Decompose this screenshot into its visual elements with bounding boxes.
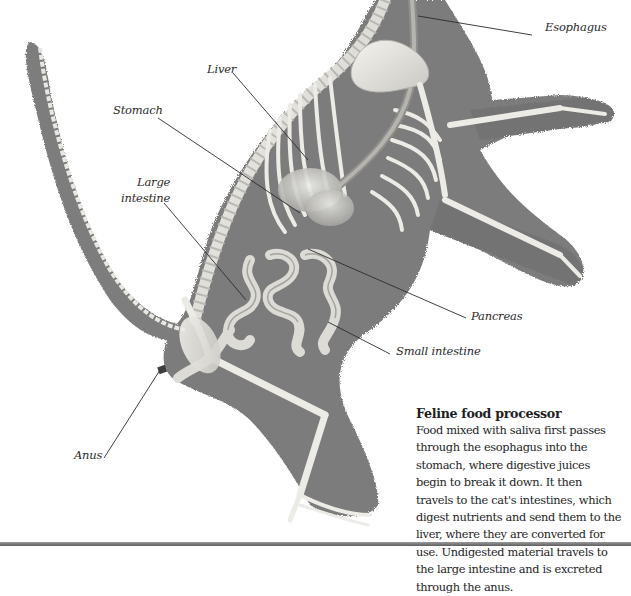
bottom-divider [0, 542, 631, 546]
stomach-organ [306, 190, 354, 226]
leader-line-anus [104, 370, 160, 458]
label-anus: Anus [74, 448, 102, 462]
caption-line: digest nutrients and send them to the [416, 509, 631, 526]
caption-body: Food mixed with saliva first passes thro… [416, 422, 631, 596]
caption-line: through the anus. [416, 579, 631, 596]
label-small-intestine: Small intestine [396, 344, 481, 358]
label-stomach: Stomach [113, 103, 163, 117]
caption-title: Feline food processor [416, 406, 631, 422]
caption-line: Food mixed with saliva first passes [416, 422, 631, 439]
caption-line: use. Undigested material travels to [416, 544, 631, 561]
label-large-intestine-line2: intestine [121, 191, 170, 205]
caption-line: stomach, where digestive juices [416, 457, 631, 474]
caption-line: travels to the cat's intestines, which [416, 492, 631, 509]
caption-line: begin to break it down. It then [416, 474, 631, 491]
caption-line: the large intestine and is excreted [416, 561, 631, 578]
caption-block: Feline food processor Food mixed with sa… [416, 406, 631, 596]
caption-line: through the esophagus into the [416, 439, 631, 456]
label-esophagus: Esophagus [545, 20, 607, 34]
label-pancreas: Pancreas [471, 309, 522, 323]
label-liver: Liver [207, 62, 236, 76]
label-large-intestine-line1: Large [137, 175, 170, 189]
